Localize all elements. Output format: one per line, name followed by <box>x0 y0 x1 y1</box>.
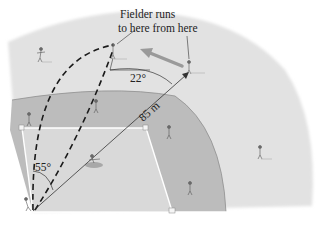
first-base <box>169 208 175 213</box>
second-base <box>143 125 148 130</box>
callout-text-line1: Fielder runs <box>120 8 176 20</box>
callout-text-line2: to here from here <box>118 22 198 34</box>
angle-label-22: 22° <box>130 72 147 84</box>
angle-label-55: 55° <box>35 161 52 173</box>
baseball-field-diagram: Fielder runs to here from here 22° 85 m … <box>0 0 331 225</box>
third-base <box>19 125 24 130</box>
